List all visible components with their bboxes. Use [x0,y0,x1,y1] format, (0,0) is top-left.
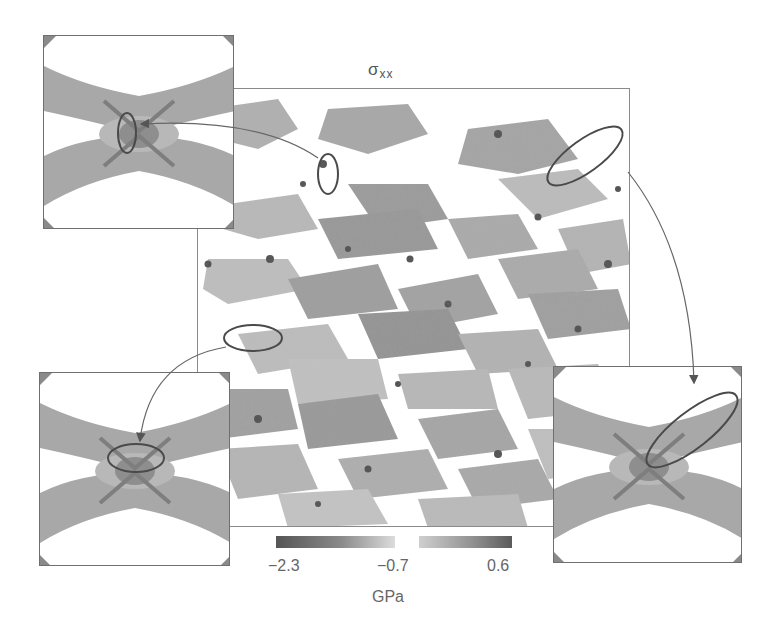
colorbar-tick-min: −2.3 [268,557,300,575]
title-sigma: σ [368,60,379,79]
colorbar-tick-max: 0.6 [487,557,509,575]
inset-top-left [43,35,234,229]
arrow-to-bottom-right-inset [628,172,694,382]
inset-graphic [44,36,234,229]
inset-bottom-right [553,366,742,563]
colorbar-tick-mid: −0.7 [377,557,409,575]
ellipse-marker-top [318,154,338,194]
inset-graphic [40,373,230,566]
inset-bottom-left [39,372,230,566]
colorbar-graphic [276,536,512,548]
title-subscript: xx [380,67,394,81]
plot-title: σxx [368,60,394,80]
colorbar-unit-label: GPa [372,588,404,606]
colorbar [276,536,512,548]
inset-graphic [554,367,742,563]
